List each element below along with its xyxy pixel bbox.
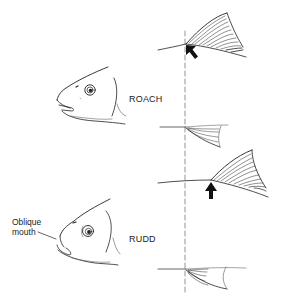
- fish-comparison-diagram: ROACH RUDD Oblique mouth: [0, 0, 282, 303]
- diagram-drawing: [0, 0, 282, 303]
- roach-label: ROACH: [129, 94, 163, 104]
- rudd-pelvic-fin: [158, 267, 246, 289]
- rudd-head: [57, 199, 120, 265]
- oblique-mouth-label-line-2: mouth: [12, 227, 41, 237]
- oblique-mouth-label-line-1: Oblique: [12, 217, 41, 227]
- rudd-arrow-icon: [205, 182, 217, 199]
- oblique-mouth-label: Oblique mouth: [12, 217, 41, 237]
- roach-pelvic-fin: [160, 125, 228, 147]
- roach-dorsal-fin: [158, 13, 246, 57]
- roach-arrow-icon: [186, 45, 198, 59]
- roach-head: [57, 67, 126, 124]
- rudd-label: RUDD: [129, 234, 156, 244]
